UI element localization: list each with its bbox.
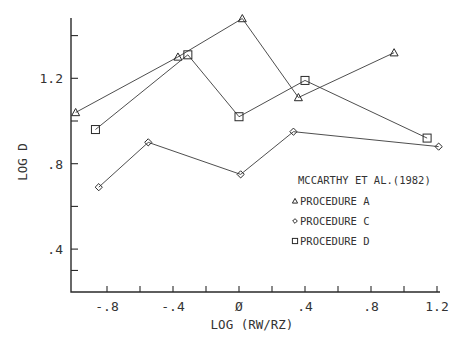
triangle-marker-icon [292,198,297,203]
x-tick-label: 1.2 [425,299,448,314]
axis-lines [71,18,440,292]
tick-labels: -.8-.4Ø.4.81.21.2.8.4 [40,71,449,314]
data-series [72,15,443,191]
series-line [76,19,394,113]
legend: MCCARTHY ET AL.(1982) PROCEDURE APROCEDU… [292,174,430,247]
legend-item: PROCEDURE C [293,215,370,227]
x-tick-label: -.8 [95,299,118,314]
series-procedure-d [91,51,431,142]
legend-label: PROCEDURE A [300,195,370,207]
chart: -.8-.4Ø.4.81.21.2.8.4 LOG (RW/RZ) LOG D … [0,0,461,344]
axes [71,18,440,292]
triangle-marker-icon [390,49,398,56]
square-marker-icon [292,238,297,243]
legend-item: PROCEDURE A [292,195,370,207]
legend-label: PROCEDURE C [300,215,370,227]
x-axis-title: LOG (RW/RZ) [211,317,294,332]
y-tick-label: .4 [47,242,63,257]
series-line [95,55,427,138]
x-tick-label: .8 [363,299,379,314]
legend-item: PROCEDURE D [292,235,369,247]
x-tick-label: Ø [235,299,243,314]
legend-title: MCCARTHY ET AL.(1982) [298,174,431,186]
y-axis-title: LOG D [15,143,30,181]
x-tick-label: .4 [297,299,313,314]
series-procedure-a [72,15,398,116]
y-tick-label: 1.2 [40,71,63,86]
diamond-marker-icon [293,219,298,224]
x-tick-label: -.4 [161,299,185,314]
legend-label: PROCEDURE D [300,235,370,247]
y-tick-label: .8 [47,157,63,172]
